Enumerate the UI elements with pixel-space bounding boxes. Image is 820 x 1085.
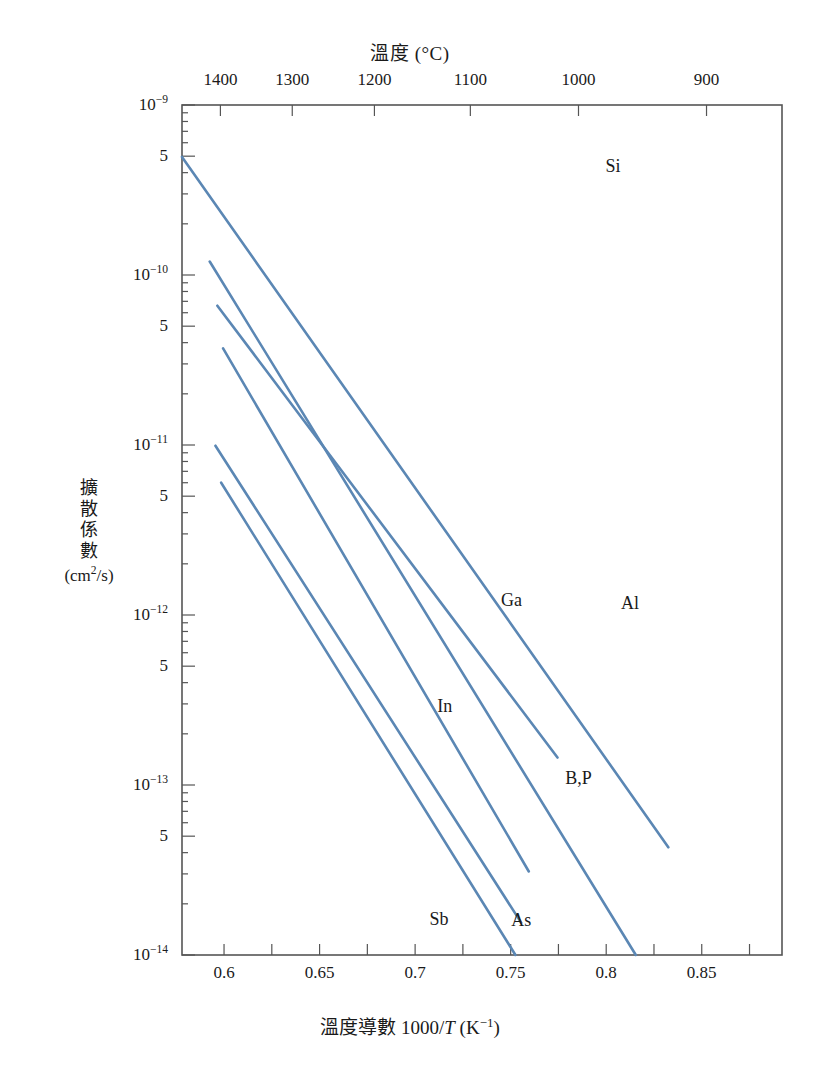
y-tick-label-10−10: 10−10 — [133, 265, 168, 285]
y-axis-title: 擴 散 係 數 (cm2/s) — [58, 478, 120, 586]
curve-label-Ga: Ga — [501, 590, 522, 611]
curve-Al — [182, 157, 668, 847]
curve-label-As: As — [511, 910, 531, 931]
curve-label-Al: Al — [621, 592, 639, 613]
x-tick-label-0.65: 0.65 — [305, 963, 335, 983]
top-tick-label-1200: 1200 — [357, 70, 391, 90]
x-tick-label-0.6: 0.6 — [213, 963, 234, 983]
y-axis-title-char-1: 散 — [58, 499, 120, 520]
annotation-Si: Si — [605, 155, 620, 176]
y-axis-title-char-3: 數 — [58, 541, 120, 562]
curve-B,P — [210, 262, 636, 955]
bottom-axis-title-cjk: 溫度導數 — [320, 1017, 401, 1038]
y-tick-label-10−11: 10−11 — [133, 435, 168, 455]
x-tick-label-0.85: 0.85 — [687, 963, 717, 983]
plot-frame — [182, 105, 782, 955]
y-tick-label-10−13: 10−13 — [133, 775, 168, 795]
curve-label-Sb: Sb — [429, 909, 448, 930]
top-axis-title-cjk: 溫度 — [370, 43, 409, 64]
y-tick-label-mid: 5 — [160, 826, 169, 846]
bottom-axis-title-var: T — [444, 1017, 455, 1038]
curve-In — [223, 348, 529, 871]
x-tick-label-0.75: 0.75 — [496, 963, 526, 983]
y-tick-label-mid: 5 — [160, 486, 169, 506]
y-tick-label-mid: 5 — [160, 656, 169, 676]
top-tick-label-1400: 1400 — [203, 70, 237, 90]
y-tick-label-10−14: 10−14 — [133, 945, 168, 965]
curve-label-In: In — [437, 696, 452, 717]
x-tick-label-0.7: 0.7 — [404, 963, 425, 983]
y-tick-label-mid: 5 — [160, 316, 169, 336]
top-tick-label-1300: 1300 — [275, 70, 309, 90]
y-axis-title-units: (cm2/s) — [58, 565, 120, 586]
y-axis-units-tail: /s) — [97, 566, 114, 585]
data-curves — [182, 157, 668, 955]
y-tick-label-10−9: 10−9 — [139, 95, 168, 115]
top-tick-label-1000: 1000 — [561, 70, 595, 90]
bottom-axis-title-unit-end: ) — [493, 1017, 499, 1038]
plot-area — [0, 0, 820, 1085]
top-axis-title: 溫度 (°C) — [0, 38, 820, 65]
bottom-axis-title-unit: (K — [455, 1017, 480, 1038]
axis-ticks — [182, 105, 750, 955]
y-tick-label-10−12: 10−12 — [133, 605, 168, 625]
bottom-axis-title-unit-sup: −1 — [480, 1015, 494, 1030]
y-axis-title-char-2: 係 — [58, 520, 120, 541]
y-tick-label-mid: 5 — [160, 146, 169, 166]
x-tick-label-0.8: 0.8 — [596, 963, 617, 983]
top-tick-label-1100: 1100 — [454, 70, 487, 90]
bottom-axis-title-expr: 1000/ — [401, 1017, 444, 1038]
top-tick-label-900: 900 — [694, 70, 720, 90]
y-axis-title-char-0: 擴 — [58, 478, 120, 499]
axes-frame — [182, 105, 782, 955]
curve-label-B,P: B,P — [565, 767, 592, 788]
diffusion-coefficient-chart: 溫度 (°C) 擴 散 係 數 (cm2/s) 溫度導數 1000/T (K−1… — [0, 0, 820, 1085]
top-axis-title-unit: (°C) — [409, 43, 449, 64]
bottom-axis-title: 溫度導數 1000/T (K−1) — [0, 1012, 820, 1039]
curve-Sb — [221, 483, 515, 955]
y-axis-units-base: (cm — [64, 566, 90, 585]
curve-Ga — [217, 306, 557, 758]
